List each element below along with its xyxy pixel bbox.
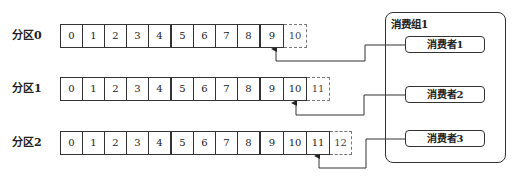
offset-cell: 3 (126, 24, 149, 48)
offset-cell: 8 (237, 131, 260, 155)
offset-cell: 5 (171, 131, 194, 155)
partition-label: 分区1 (12, 77, 42, 101)
offset-cell: 2 (104, 131, 127, 155)
offset-cell: 4 (148, 24, 171, 48)
offset-cell: 3 (126, 131, 149, 155)
offset-cell: 6 (193, 77, 216, 101)
offset-cell: 1 (82, 131, 105, 155)
offset-cell: 8 (237, 24, 260, 48)
offset-cell: 5 (171, 24, 194, 48)
offset-cell: 3 (126, 77, 149, 101)
offset-cell: 9 (260, 131, 284, 155)
offset-cell: 2 (104, 77, 127, 101)
offset-cell: 4 (148, 77, 171, 101)
next-offset-cell: 11 (307, 77, 330, 101)
offset-cell: 5 (171, 77, 194, 101)
offset-cell: 7 (215, 131, 238, 155)
diagram-canvas: 分区0 0 1 2 3 4 5 6 7 8 9 10 分区1 0 1 2 3 4… (0, 0, 524, 177)
offset-cell: 4 (148, 131, 171, 155)
offset-cell: 6 (193, 24, 216, 48)
offset-cell: 6 (193, 131, 216, 155)
offset-cell: 11 (306, 131, 330, 155)
next-offset-cell: 10 (284, 24, 307, 48)
offset-cell: 0 (60, 131, 83, 155)
offset-cell: 0 (60, 24, 83, 48)
offset-cell: 0 (60, 77, 83, 101)
consumer-group-title: 消费组1 (391, 16, 428, 31)
offset-cell: 10 (283, 131, 307, 155)
offset-cell: 1 (82, 24, 105, 48)
offset-cell: 1 (82, 77, 105, 101)
partition-label: 分区0 (12, 24, 42, 48)
consumer-box-3: 消费者3 (405, 130, 485, 147)
offset-cell: 7 (215, 24, 238, 48)
offset-cell: 9 (260, 77, 284, 101)
offset-cell: 7 (215, 77, 238, 101)
partition-label: 分区2 (12, 131, 42, 155)
consumer-box-1: 消费者1 (405, 36, 485, 53)
next-offset-cell: 12 (330, 131, 352, 155)
offset-cell: 10 (283, 77, 307, 101)
offset-cell: 9 (260, 24, 284, 48)
offset-cell: 8 (237, 77, 260, 101)
consumer-box-2: 消费者2 (405, 86, 485, 103)
offset-cell: 2 (104, 24, 127, 48)
